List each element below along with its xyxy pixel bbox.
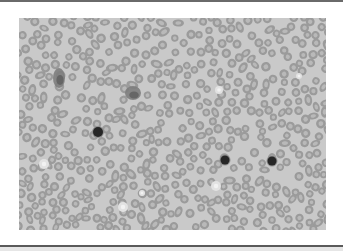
blood-smear-micrograph: Peripheral blood smear micrograph [19,18,326,230]
bottom-margin [0,247,343,251]
smear-canvas [19,18,326,230]
top-border-rule [0,0,343,2]
red-blood-cells [19,18,326,230]
